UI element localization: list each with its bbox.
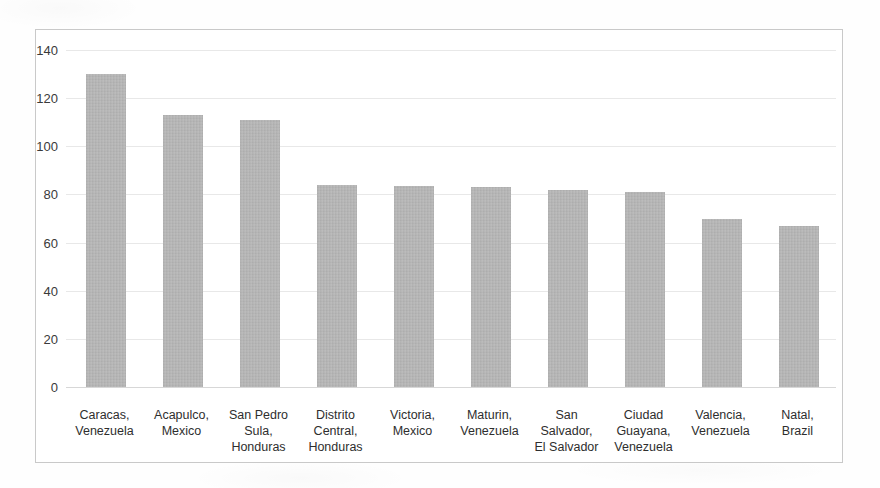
x-axis-label-line: Mexico: [371, 423, 455, 439]
bar: [548, 190, 588, 387]
x-axis-label-line: San: [525, 407, 609, 423]
x-axis-label-line: Distrito: [294, 407, 378, 423]
x-axis-label-line: Venezuela: [679, 423, 763, 439]
chart-frame: 140120100806040200 Caracas,VenezuelaAcap…: [35, 29, 843, 463]
x-axis-label-line: Valencia,: [679, 407, 763, 423]
x-axis-label: CiudadGuayana,Venezuela: [602, 407, 686, 455]
bar: [317, 185, 357, 387]
y-tick-label-120: 120: [36, 92, 58, 105]
gridline-0: [66, 387, 836, 388]
y-tick-label-140: 140: [36, 44, 58, 57]
x-axis-label: Caracas,Venezuela: [63, 407, 147, 439]
x-axis-label: Valencia,Venezuela: [679, 407, 763, 439]
bar: [240, 120, 280, 387]
x-axis-category-labels: Caracas,VenezuelaAcapulco,MexicoSan Pedr…: [66, 407, 836, 463]
x-axis-label-line: Venezuela: [448, 423, 532, 439]
x-axis-label-line: Maturin,: [448, 407, 532, 423]
bar: [163, 115, 203, 387]
x-axis-label: Victoria,Mexico: [371, 407, 455, 439]
bar-series: [66, 50, 836, 387]
x-axis-label-line: El Salvador: [525, 439, 609, 455]
x-axis-label: DistritoCentral,Honduras: [294, 407, 378, 455]
x-axis-label-line: Guayana,: [602, 423, 686, 439]
page-background: 140120100806040200 Caracas,VenezuelaAcap…: [0, 0, 880, 488]
y-tick-label-0: 0: [51, 381, 58, 394]
x-axis-label-line: Honduras: [217, 439, 301, 455]
x-axis-label-line: Venezuela: [63, 423, 147, 439]
plot-area: 140120100806040200: [66, 50, 836, 387]
x-axis-label-line: Venezuela: [602, 439, 686, 455]
x-axis-label: Natal,Brazil: [756, 407, 840, 439]
x-axis-label-line: Ciudad: [602, 407, 686, 423]
bar: [625, 192, 665, 387]
bar: [394, 186, 434, 387]
x-axis-label-line: Victoria,: [371, 407, 455, 423]
y-tick-label-80: 80: [44, 188, 58, 201]
x-axis-label-line: Brazil: [756, 423, 840, 439]
x-axis-label-line: Acapulco,: [140, 407, 224, 423]
x-axis-label-line: Honduras: [294, 439, 378, 455]
bar: [86, 74, 126, 387]
x-axis-label-line: Caracas,: [63, 407, 147, 423]
x-axis-label: Maturin,Venezuela: [448, 407, 532, 439]
bar: [471, 187, 511, 387]
bar: [779, 226, 819, 387]
x-axis-label-line: Natal,: [756, 407, 840, 423]
x-axis-label-line: San Pedro: [217, 407, 301, 423]
y-tick-label-40: 40: [44, 284, 58, 297]
y-tick-label-60: 60: [44, 236, 58, 249]
x-axis-label-line: Salvador,: [525, 423, 609, 439]
y-tick-label-100: 100: [36, 140, 58, 153]
bar: [702, 219, 742, 388]
x-axis-label: Acapulco,Mexico: [140, 407, 224, 439]
x-axis-label-line: Mexico: [140, 423, 224, 439]
x-axis-label-line: Central,: [294, 423, 378, 439]
x-axis-label: San PedroSula,Honduras: [217, 407, 301, 455]
x-axis-label: SanSalvador,El Salvador: [525, 407, 609, 455]
x-axis-label-line: Sula,: [217, 423, 301, 439]
y-tick-label-20: 20: [44, 332, 58, 345]
